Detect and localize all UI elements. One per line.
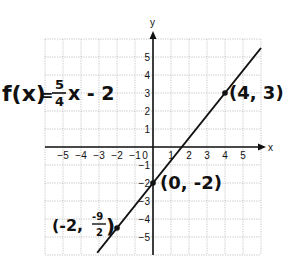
y-tick-label: 1: [144, 124, 150, 135]
y-tick-label: −1: [139, 160, 151, 171]
y-tick-label: 2: [144, 106, 150, 117]
x-tick-label: −3: [93, 150, 105, 161]
y-tick-label: 3: [144, 88, 150, 99]
data-point: [222, 90, 228, 96]
x-tick-label: −5: [57, 150, 69, 161]
function-rest: x - 2: [68, 82, 115, 104]
point-label-numerator: -9: [92, 211, 103, 222]
y-tick-label: 5: [144, 52, 150, 63]
y-axis-arrow-icon: [150, 31, 157, 39]
x-tick-label: 3: [204, 150, 210, 161]
y-tick-label: −4: [139, 214, 151, 225]
point-label-0-neg2: (0, -2): [160, 172, 222, 193]
point-label-4-3: (4, 3): [229, 82, 284, 103]
x-tick-label: 5: [240, 150, 246, 161]
data-point: [150, 180, 156, 186]
point-label-neg2-neg9-2: (-2, -9 2 ): [52, 211, 115, 238]
function-label: f(x) = 5 4 x - 2: [2, 77, 115, 109]
point-label-close: ): [106, 214, 115, 238]
slope-numerator: 5: [55, 77, 64, 92]
y-tick-label: 4: [144, 70, 150, 81]
x-axis-arrow-icon: [258, 144, 266, 151]
y-tick-label: −5: [139, 232, 151, 243]
x-tick-label: 2: [186, 150, 192, 161]
slope-denominator: 4: [55, 94, 64, 109]
x-tick-label: −2: [111, 150, 123, 161]
point-label-open: (-2,: [52, 216, 83, 235]
point-label-denominator: 2: [96, 227, 103, 238]
x-tick-label: −4: [75, 150, 87, 161]
function-equals: =: [40, 85, 53, 104]
x-tick-labels: −5−4−3−2−1012345: [57, 150, 246, 161]
x-axis-label: x: [268, 142, 273, 153]
function-graph: x y −5−4−3−2−1012345 54321−1−2−3−4−5 f(x…: [0, 0, 296, 269]
x-tick-label: 4: [222, 150, 228, 161]
y-axis-label: y: [150, 17, 155, 28]
